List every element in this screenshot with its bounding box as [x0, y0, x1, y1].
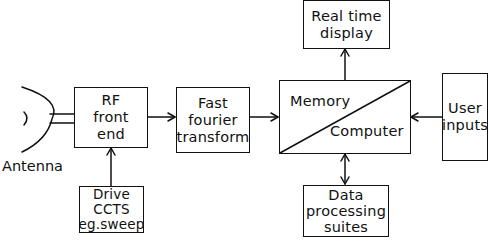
- fft-label-line-2: fourier: [188, 112, 237, 129]
- computer-label: Computer: [330, 123, 404, 140]
- drive-ccts-block: Drive CCTS eg.sweep: [79, 186, 144, 233]
- diagonal-divider: [279, 80, 411, 154]
- rf-label-line-3: end: [97, 126, 125, 143]
- fft-label-line-3: transform: [177, 129, 250, 146]
- fft-block: Fast fourier transform: [176, 87, 250, 153]
- fft-label-line-1: Fast: [198, 95, 228, 112]
- data-label-line-2: processing: [306, 203, 386, 219]
- data-label-line-1: Data: [328, 187, 363, 203]
- rf-label-line-2: front: [93, 109, 129, 126]
- display-label-line-1: Real time: [311, 8, 381, 25]
- display-label-line-2: display: [320, 25, 373, 42]
- user-inputs-label-line-2: inputs: [442, 117, 488, 134]
- drive-label-line-3: eg.sweep: [78, 217, 144, 232]
- user-inputs-label-line-1: User: [448, 100, 482, 117]
- real-time-display-block: Real time display: [303, 0, 390, 49]
- antenna-label: Antenna: [2, 158, 63, 174]
- drive-label-line-2: CCTS: [93, 202, 129, 217]
- antenna-feed-icon: [24, 112, 27, 125]
- rf-label-line-1: RF: [102, 92, 121, 109]
- rf-front-end-block: RF front end: [74, 87, 148, 148]
- data-label-line-3: suites: [324, 219, 368, 235]
- drive-label-line-1: Drive: [93, 187, 130, 202]
- user-inputs-block: User inputs: [442, 73, 488, 161]
- memory-computer-block: Memory Computer: [279, 80, 411, 154]
- data-processing-block: Data processing suites: [303, 185, 389, 237]
- memory-label: Memory: [290, 93, 350, 110]
